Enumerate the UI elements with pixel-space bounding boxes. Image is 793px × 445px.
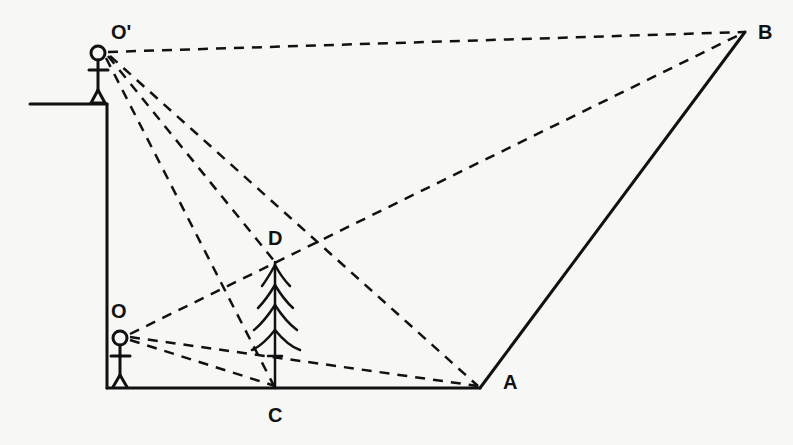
sightline-O-A — [130, 337, 478, 386]
tree-CD — [252, 262, 300, 388]
label-C: C — [268, 405, 282, 425]
observer-O-prime — [89, 46, 108, 103]
label-B: B — [758, 22, 772, 42]
label-A: A — [503, 372, 517, 392]
slope-AB — [480, 32, 745, 388]
sightline-Oprime-C — [106, 58, 275, 388]
label-O-prime: O' — [111, 22, 131, 42]
label-O: O — [111, 301, 127, 321]
sightline-Oprime-D — [108, 56, 275, 262]
sightline-O-B — [130, 32, 745, 334]
sightline-Oprime-A — [110, 56, 478, 386]
sightline-Oprime-B — [108, 32, 745, 52]
observer-O — [111, 331, 130, 387]
label-D: D — [268, 228, 282, 248]
diagram-canvas — [0, 0, 793, 445]
sightlines-dashed — [106, 32, 745, 388]
